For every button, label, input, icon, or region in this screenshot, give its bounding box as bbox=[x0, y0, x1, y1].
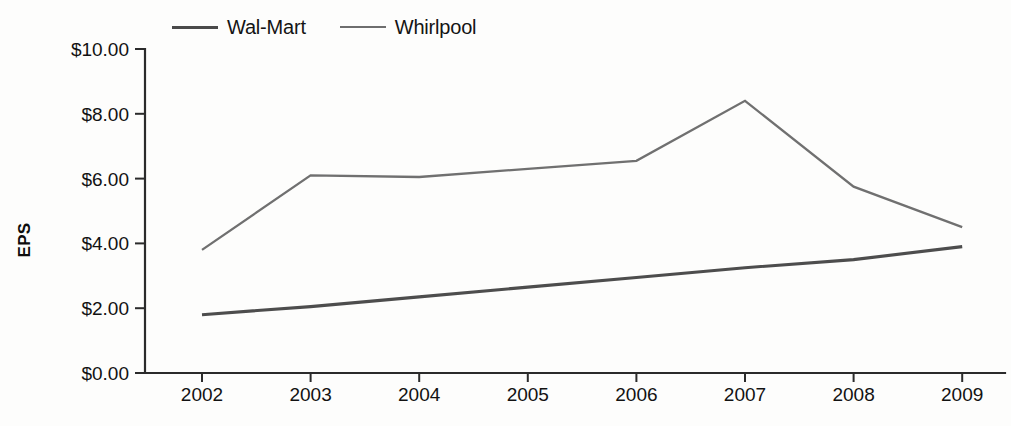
y-axis-tick-label: $10.00 bbox=[71, 39, 129, 60]
x-axis-tick-label: 2003 bbox=[289, 384, 331, 405]
y-axis-tick-label: $8.00 bbox=[81, 104, 129, 125]
y-axis-tick-label: $2.00 bbox=[81, 298, 129, 319]
x-axis-tick-labels: 20022003200420052006200720082009 bbox=[181, 384, 983, 405]
y-axis-tick-marks bbox=[135, 49, 145, 373]
y-axis-tick-label: $0.00 bbox=[81, 363, 129, 384]
series-line-wal-mart bbox=[202, 247, 962, 315]
y-axis-tick-label: $6.00 bbox=[81, 169, 129, 190]
x-axis-tick-label: 2004 bbox=[398, 384, 441, 405]
series-line-whirlpool bbox=[202, 101, 962, 250]
x-axis-tick-label: 2009 bbox=[941, 384, 983, 405]
y-axis-tick-label: $4.00 bbox=[81, 233, 129, 254]
y-axis-tick-labels: $0.00$2.00$4.00$6.00$8.00$10.00 bbox=[71, 39, 129, 384]
chart-svg: $0.00$2.00$4.00$6.00$8.00$10.00 20022003… bbox=[0, 0, 1011, 426]
plot-area: $0.00$2.00$4.00$6.00$8.00$10.00 20022003… bbox=[0, 0, 1011, 426]
series-lines bbox=[202, 101, 962, 315]
x-axis-tick-label: 2007 bbox=[724, 384, 766, 405]
x-axis-tick-label: 2008 bbox=[832, 384, 874, 405]
x-axis-tick-marks bbox=[202, 373, 962, 382]
x-axis-tick-label: 2006 bbox=[615, 384, 657, 405]
x-axis-tick-label: 2005 bbox=[507, 384, 549, 405]
y-axis-title: EPS bbox=[15, 223, 34, 258]
x-axis-tick-label: 2002 bbox=[181, 384, 223, 405]
eps-line-chart: Wal-Mart Whirlpool $0.00$2.00$4.00$6.00$… bbox=[0, 0, 1011, 426]
